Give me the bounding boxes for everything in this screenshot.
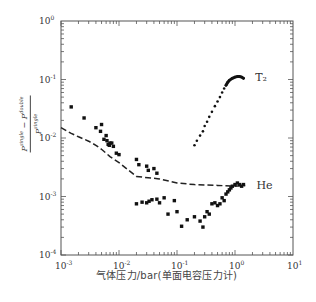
t2-dot — [193, 144, 196, 147]
data-point-square — [117, 153, 120, 156]
data-point-square — [210, 202, 213, 205]
y-axis-title-denominator: Psingle — [31, 96, 43, 153]
data-point-square — [201, 225, 204, 228]
data-point-square — [173, 199, 176, 202]
x-tick-label: 10-3 — [55, 259, 72, 271]
t2-dot — [211, 111, 214, 114]
data-point-square — [99, 130, 102, 133]
t2-dot — [206, 120, 209, 123]
t2-saturation-arc — [226, 77, 244, 86]
data-point-square — [140, 200, 143, 203]
t2-dot — [214, 105, 217, 108]
series-annotation: He — [256, 179, 272, 192]
data-point-square — [112, 145, 115, 148]
data-point-square — [180, 225, 183, 228]
data-point-square — [193, 215, 196, 218]
t2-dot — [196, 139, 199, 142]
data-point-square — [155, 197, 158, 200]
data-point-square — [242, 183, 245, 186]
data-point-square — [100, 123, 103, 126]
y-axis-title: Psingle − Pdouble Psingle — [8, 102, 52, 146]
data-point-square — [145, 164, 148, 167]
x-tick-label: 101 — [287, 259, 302, 271]
t2-dot — [223, 87, 226, 90]
data-point-square — [137, 163, 140, 166]
data-point-square — [203, 215, 206, 218]
data-point-square — [162, 196, 165, 199]
t2-dot — [203, 125, 206, 128]
series-annotation: T₂ — [255, 71, 267, 84]
t2-dot — [199, 134, 202, 137]
data-point-square — [110, 141, 113, 144]
t2-dot — [202, 130, 205, 133]
y-tick-label: 10-1 — [39, 73, 56, 85]
he-dashed-curve — [61, 128, 245, 187]
data-point-square — [70, 105, 73, 108]
data-point-square — [105, 139, 108, 142]
y-tick-label: 100 — [39, 14, 54, 26]
data-point-square — [208, 212, 211, 215]
data-point-square — [166, 212, 169, 215]
data-point-square — [218, 202, 221, 205]
y-axis-title-numerator: Psingle − Pdouble — [18, 96, 31, 153]
data-point-square — [82, 116, 85, 119]
data-point-square — [135, 158, 138, 161]
data-point-square — [186, 218, 189, 221]
y-tick-label: 10-3 — [39, 190, 56, 202]
y-tick-label: 10-4 — [39, 248, 56, 260]
t2-dot — [219, 96, 222, 99]
data-point-square — [152, 167, 155, 170]
t2-dot — [221, 91, 224, 94]
chart-canvas: 10-310-210-110010110010-110-210-310-4T₂H… — [0, 0, 316, 302]
data-point-square — [175, 210, 178, 213]
t2-dot — [208, 116, 211, 119]
plot-frame — [61, 21, 293, 255]
data-point-square — [198, 219, 201, 222]
data-point-square — [155, 172, 158, 175]
data-point-square — [222, 199, 225, 202]
data-point-square — [135, 202, 138, 205]
data-point-square — [150, 198, 153, 201]
t2-dot — [216, 100, 219, 103]
data-point-square — [104, 134, 107, 137]
data-point-square — [94, 126, 97, 129]
data-point-square — [158, 201, 161, 204]
x-axis-title: 气体压力/bar(单面电容压力计) — [96, 267, 237, 282]
data-point-square — [102, 138, 105, 141]
data-point-square — [147, 169, 150, 172]
